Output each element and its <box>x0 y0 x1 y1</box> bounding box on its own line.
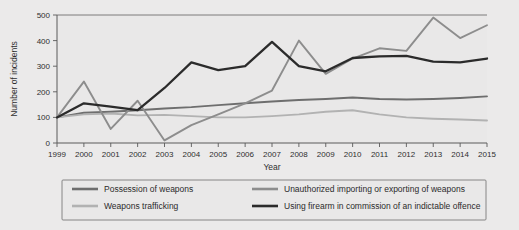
x-axis-tick-label: 1999 <box>48 150 66 159</box>
x-axis-tick-label: 2005 <box>209 150 227 159</box>
y-axis-tick-label: 100 <box>37 113 51 122</box>
plot-area-background <box>57 15 487 143</box>
legend-label: Unauthorized importing or exporting of w… <box>284 184 465 194</box>
x-axis-tick-labels: 1999200020012002200320042005200620072008… <box>48 150 496 159</box>
x-axis-tick-label: 2002 <box>129 150 147 159</box>
x-axis-tick-label: 2010 <box>344 150 362 159</box>
x-axis-tick-label: 2004 <box>182 150 200 159</box>
line-chart: 0100200300400500 19992000200120022003200… <box>0 0 519 230</box>
y-axis-tick-label: 500 <box>37 11 51 20</box>
x-axis-tick-label: 2007 <box>263 150 281 159</box>
y-axis-tick-label: 200 <box>37 88 51 97</box>
x-axis-tick-label: 2014 <box>451 150 469 159</box>
x-axis-tick-label: 2008 <box>290 150 308 159</box>
legend-label: Using firearm in commission of an indict… <box>284 201 481 211</box>
x-axis-tick-label: 2015 <box>478 150 496 159</box>
legend-label: Weapons trafficking <box>104 201 179 211</box>
legend-label: Possession of weapons <box>104 184 193 194</box>
x-axis-tick-label: 2000 <box>75 150 93 159</box>
x-axis-tick-label: 2006 <box>236 150 254 159</box>
x-axis-tick-label: 2013 <box>424 150 442 159</box>
x-axis-tick-label: 2009 <box>317 150 335 159</box>
y-axis-tick-label: 300 <box>37 62 51 71</box>
y-axis-title: Number of incidents <box>9 41 19 117</box>
x-axis-tick-label: 2011 <box>371 150 389 159</box>
x-axis-tick-label: 2003 <box>156 150 174 159</box>
y-axis-tick-label: 400 <box>37 37 51 46</box>
x-axis-tick-label: 2012 <box>397 150 415 159</box>
x-axis-title: Year <box>263 162 280 172</box>
x-axis-tick-label: 2001 <box>102 150 120 159</box>
y-axis-tick-label: 0 <box>46 139 51 148</box>
